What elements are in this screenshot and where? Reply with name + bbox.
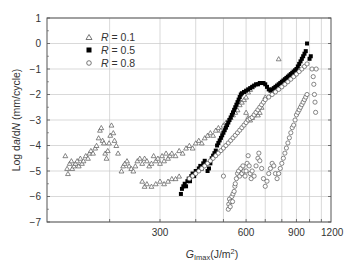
legend: R = 0.1 R = 0.5 R = 0.8 (86, 31, 135, 69)
y-tick-label: −4 (30, 140, 42, 151)
data-point (313, 100, 317, 104)
data-point (158, 161, 163, 165)
data-point (281, 156, 285, 160)
data-point (265, 179, 269, 183)
data-point (278, 166, 282, 170)
y-axis-title: Log da/dN (mm/cycle) (10, 69, 22, 172)
x-tick-label: 1200 (321, 227, 344, 238)
data-point (244, 95, 249, 99)
data-point (286, 141, 290, 145)
data-point (184, 184, 188, 188)
data-point (66, 171, 71, 175)
data-point (230, 200, 234, 204)
data-point (293, 118, 297, 122)
data-point (99, 125, 104, 129)
data-point (246, 154, 250, 158)
data-point (65, 166, 70, 170)
data-point (254, 164, 258, 168)
data-point (112, 138, 117, 142)
data-point (233, 182, 237, 186)
data-point (232, 189, 236, 193)
data-point (309, 54, 313, 58)
data-point (267, 171, 271, 175)
data-point (311, 75, 315, 79)
data-point (304, 49, 308, 53)
svg-text:R = 0.1: R = 0.1 (101, 31, 135, 43)
data-point (137, 156, 142, 160)
data-point (305, 92, 309, 96)
data-point (145, 182, 150, 186)
data-point (283, 151, 287, 155)
data-point (284, 146, 288, 150)
data-point (160, 154, 165, 158)
data-point (107, 141, 112, 145)
data-point (149, 161, 154, 165)
data-point (276, 57, 281, 61)
data-point (241, 164, 245, 168)
data-point (272, 164, 276, 168)
data-point (277, 171, 281, 175)
data-point (221, 174, 225, 178)
data-point (310, 67, 314, 71)
y-tick-label: −5 (30, 166, 42, 177)
data-point (116, 151, 121, 155)
data-point (257, 151, 261, 155)
data-point (252, 174, 256, 178)
data-point (153, 182, 158, 186)
data-point (250, 169, 254, 173)
data-point (305, 62, 309, 66)
data-point (228, 205, 232, 209)
data-point (243, 174, 247, 178)
data-point (177, 174, 182, 178)
data-point (140, 161, 145, 165)
y-tick-label: 0 (35, 38, 41, 49)
data-point (149, 184, 154, 188)
data-point (314, 110, 318, 114)
y-tick-label: −3 (30, 115, 42, 126)
data-point (162, 159, 167, 163)
data-point (158, 179, 163, 183)
data-point (287, 136, 291, 140)
data-point (312, 92, 316, 96)
data-point (125, 159, 130, 163)
data-point (275, 177, 279, 181)
data-point (207, 166, 211, 170)
data-point (164, 151, 169, 155)
data-point (260, 166, 264, 170)
data-point (244, 110, 249, 114)
data-point (63, 154, 68, 158)
data-point (292, 123, 296, 127)
y-tick-label: 1 (35, 13, 41, 24)
data-point (247, 164, 251, 168)
filled-square-icon (87, 48, 92, 53)
data-point (314, 67, 318, 71)
open-circle-icon (87, 61, 92, 66)
open-triangle-icon (86, 35, 92, 40)
data-point (78, 156, 83, 160)
data-point (151, 154, 156, 158)
x-axis-title: GImax(J/m2) (186, 247, 239, 262)
data-point (104, 156, 109, 160)
data-point (244, 169, 248, 173)
data-point (196, 138, 201, 142)
data-point (111, 131, 116, 135)
x-tick-label: 900 (288, 227, 305, 238)
y-tick-label: −6 (30, 191, 42, 202)
legend-item-r05: R = 0.5 (87, 44, 136, 56)
data-point (156, 156, 161, 160)
data-point (96, 136, 101, 140)
data-point (208, 131, 213, 135)
x-tick-label: 600 (238, 227, 255, 238)
data-point (179, 192, 183, 196)
data-point (289, 131, 293, 135)
legend-item-r08: R = 0.8 (87, 57, 136, 69)
data-point (258, 159, 262, 163)
data-point (140, 179, 145, 183)
svg-text:R = 0.5: R = 0.5 (101, 44, 135, 56)
data-point (280, 161, 284, 165)
data-point (312, 82, 316, 86)
data-point (263, 184, 267, 188)
x-tick-label: 300 (152, 227, 169, 238)
y-tick-label: −7 (30, 217, 42, 228)
chart: 10−1−2−3−4−5−6−7 3006009001200 R = 0.1 R… (0, 0, 360, 272)
